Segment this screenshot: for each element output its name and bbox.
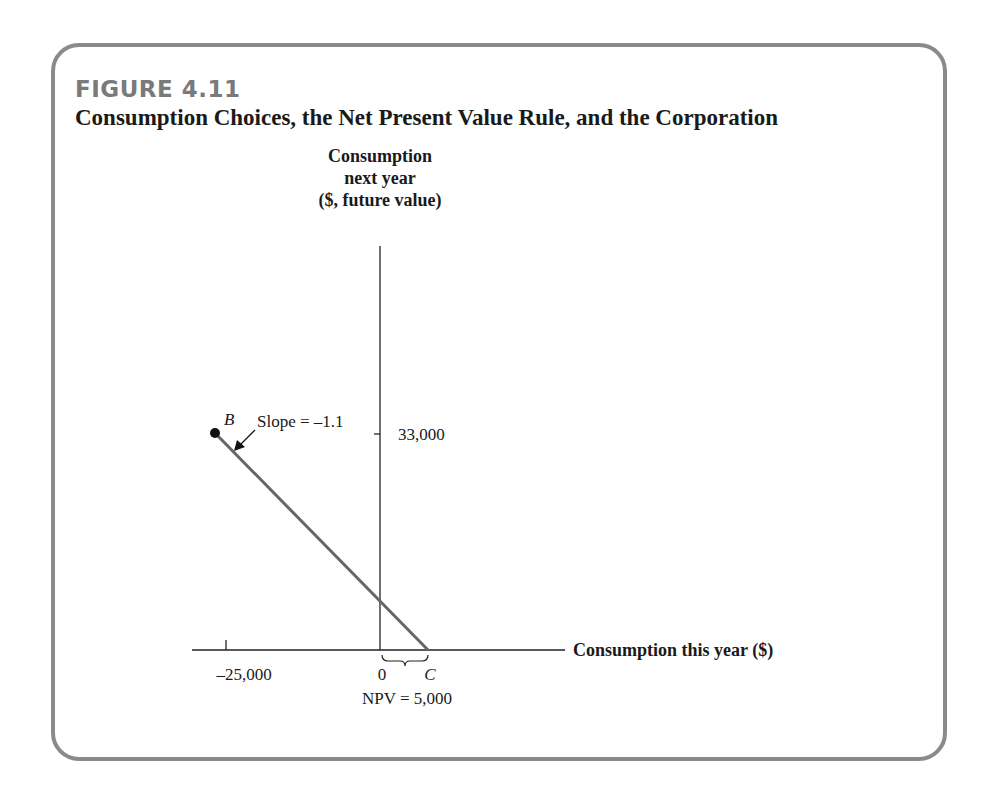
point-c-label: C bbox=[424, 665, 436, 684]
y-axis-label-line-3: ($, future value) bbox=[318, 190, 441, 211]
npv-annotation: NPV = 5,000 bbox=[362, 689, 452, 708]
x-axis-label: Consumption this year ($) bbox=[573, 640, 773, 661]
y-axis-label-line-1: Consumption bbox=[328, 146, 432, 166]
x-tick-label-neg25000: –25,000 bbox=[215, 665, 271, 684]
slope-annotation: Slope = –1.1 bbox=[257, 412, 344, 431]
chart: Consumption next year ($, future value) … bbox=[0, 0, 990, 799]
npv-brace bbox=[382, 655, 428, 666]
slope-arrow-shaft bbox=[240, 430, 255, 445]
point-b-label: B bbox=[224, 410, 235, 429]
y-tick-label-33000: 33,000 bbox=[398, 425, 445, 444]
investment-line bbox=[215, 433, 428, 650]
point-b-marker bbox=[210, 428, 220, 438]
y-axis-label-line-2: next year bbox=[344, 168, 415, 188]
x-tick-label-0: 0 bbox=[378, 665, 387, 684]
